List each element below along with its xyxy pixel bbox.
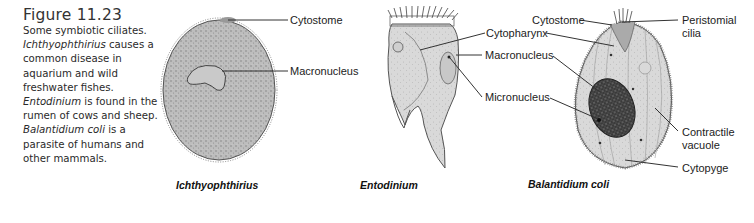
label-bal-peristomial-2: cilia xyxy=(682,27,701,39)
bal-peristomial-leader xyxy=(622,20,678,22)
label-bal-peristomial-1: Peristomial xyxy=(682,14,736,26)
species-name-entodinium: Entodinium xyxy=(360,179,418,191)
label-ent-micronucleus: Micronucleus xyxy=(485,91,550,103)
label-ent-macronucleus: Macronucleus xyxy=(485,49,553,61)
entodinium-illustration xyxy=(388,6,459,168)
balantidium-illustration xyxy=(575,8,671,168)
label-ich-macronucleus: Macronucleus xyxy=(290,65,358,77)
label-bal-contractile-1: Contractile xyxy=(682,126,735,138)
bal-cytostome-leader xyxy=(580,20,612,25)
species-name-ichthyophthirius: Ichthyophthirius xyxy=(176,179,258,191)
label-bal-contractile-2: vacuole xyxy=(682,139,720,151)
label-bal-cytostome: Cytostome xyxy=(532,14,585,26)
ichthyophthirius-illustration xyxy=(161,17,277,162)
species-name-balantidium: Balantidium coli xyxy=(528,178,609,190)
label-ent-cytopharynx: Cytopharynx xyxy=(486,27,548,39)
label-bal-cytopyge: Cytopyge xyxy=(682,162,728,174)
label-ich-cytostome: Cytostome xyxy=(290,14,343,26)
